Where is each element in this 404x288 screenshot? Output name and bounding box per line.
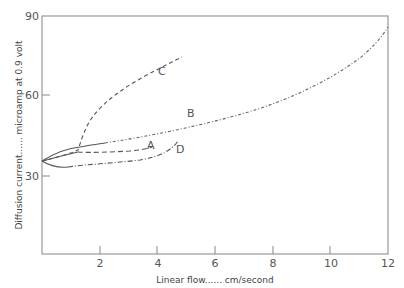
y-tick-30: 30	[25, 170, 39, 183]
x-tick-8: 8	[270, 257, 277, 270]
y-tick-60: 60	[25, 89, 39, 102]
y-tick-90: 90	[25, 10, 39, 23]
x-tick-2: 2	[97, 257, 104, 270]
curve-a-dashed	[78, 147, 152, 152]
curve-a-solid	[42, 152, 78, 161]
curve-label-b: B	[187, 107, 195, 120]
curve-d-solid	[42, 161, 68, 167]
x-tick-12: 12	[381, 257, 395, 270]
diffusion-current-chart: 30 60 90 2 4 6 8 10 12 Linear flow......…	[0, 0, 404, 288]
curve-label-d: D	[176, 143, 184, 156]
x-axis: 2 4 6 8 10 12	[97, 246, 396, 270]
y-axis-title: Diffusion current...... microamp at 0.9 …	[14, 40, 24, 230]
curve-label-a: A	[147, 139, 155, 152]
x-tick-6: 6	[212, 257, 219, 270]
x-tick-4: 4	[155, 257, 162, 270]
y-axis: 30 60 90	[25, 10, 50, 183]
curve-b-dotted	[105, 27, 388, 143]
curve-d-dashdot	[68, 141, 178, 167]
x-tick-10: 10	[324, 257, 338, 270]
plot-frame	[42, 16, 388, 254]
curve-label-c: C	[158, 65, 166, 78]
x-axis-title: Linear flow...... cm/second	[156, 275, 273, 285]
